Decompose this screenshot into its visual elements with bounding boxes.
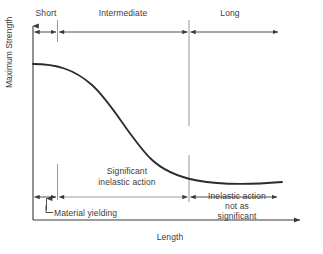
inelastic-not-significant-line3: significant	[194, 211, 280, 221]
material-yielding-elbow	[46, 206, 53, 213]
significant-inelastic-action-line1: Significant	[88, 166, 166, 176]
material-yielding-label: Material yielding	[54, 208, 117, 218]
region-label-long: Long	[209, 8, 251, 18]
inelastic-not-significant-line2: not as	[194, 201, 280, 211]
region-label-short: Short	[28, 8, 64, 18]
x-axis-title: Length	[140, 232, 200, 242]
inelastic-not-significant-line1: Inelastic action	[194, 191, 280, 201]
significant-inelastic-action-line2: inelastic action	[88, 177, 166, 187]
region-label-intermediate: Intermediate	[82, 8, 164, 18]
chart-figure: Short Intermediate Long Significant inel…	[0, 0, 323, 254]
y-axis-title: Maximum Strength	[4, 74, 14, 88]
material-yielding-leader	[46, 199, 53, 213]
